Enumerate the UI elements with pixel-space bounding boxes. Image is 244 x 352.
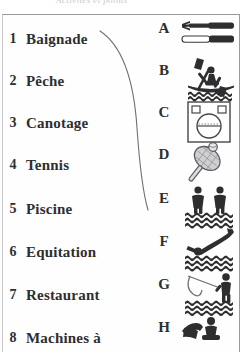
washing-machine-icon [180, 98, 242, 144]
item-letter: D [154, 146, 174, 163]
list-item[interactable]: 7 Restaurant [0, 274, 100, 316]
item-number: 1 [0, 31, 26, 47]
tennis-racket-and-ball-icon [180, 140, 242, 186]
fork-and-knife-icon [180, 14, 242, 60]
item-number: 2 [0, 73, 26, 89]
item-letter: F [154, 233, 174, 250]
list-item[interactable]: 4 Tennis [0, 144, 69, 186]
item-label: Tennis [26, 157, 69, 174]
item-letter: B [154, 62, 174, 79]
item-letter: G [154, 276, 174, 293]
two-bathers-in-water-icon [180, 184, 242, 230]
worksheet-page: Activités et points 1 Baignade 2 Pêche 3… [0, 0, 244, 352]
list-item[interactable]: 8 Machines à [0, 317, 101, 352]
item-number: 7 [0, 287, 26, 303]
diver-into-pool-icon [180, 227, 242, 273]
item-label: Equitation [26, 244, 96, 261]
item-number: 3 [0, 115, 26, 131]
item-number: 4 [0, 157, 26, 173]
item-label: Baignade [26, 31, 88, 48]
item-number: 6 [0, 244, 26, 260]
item-number: 5 [0, 201, 26, 217]
horse-rider-icon [180, 313, 242, 352]
item-letter: C [154, 104, 174, 121]
item-number: 8 [0, 330, 26, 346]
list-item[interactable]: 6 Equitation [0, 231, 96, 273]
list-item[interactable]: 3 Canotage [0, 102, 88, 144]
item-label: Piscine [26, 201, 72, 218]
list-item[interactable]: 5 Piscine [0, 188, 72, 230]
activities-list: 1 Baignade 2 Pêche 3 Canotage 4 Tennis 5… [0, 14, 140, 352]
item-label: Machines à [26, 330, 101, 347]
item-letter: H [154, 319, 174, 336]
item-label: Canotage [26, 115, 88, 132]
list-item[interactable]: 2 Pêche [0, 60, 64, 102]
pictograms-list: A B [150, 14, 244, 352]
item-letter: A [154, 20, 174, 37]
item-label: Pêche [26, 73, 64, 90]
item-letter: E [154, 190, 174, 207]
angler-fishing-icon [180, 270, 242, 316]
list-item[interactable]: 1 Baignade [0, 18, 88, 60]
item-label: Restaurant [26, 287, 100, 304]
page-header: Activités et points [0, 0, 244, 13]
kayak-paddler-icon [180, 56, 242, 102]
page-title: Activités et points [56, 0, 128, 5]
